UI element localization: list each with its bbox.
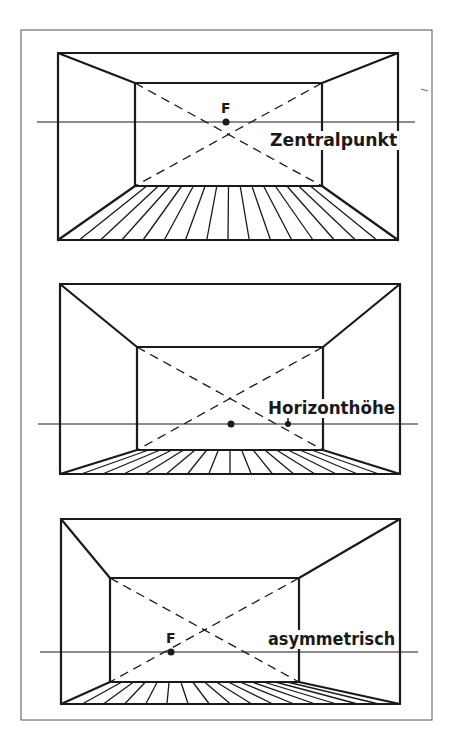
panels-group: FZentralpunktHorizonthöheFasymmetrisch	[37, 53, 418, 704]
perspective-diagram: FZentralpunktHorizonthöheFasymmetrisch	[0, 0, 456, 743]
floor-lines	[82, 682, 379, 704]
vanishing-point-label: F	[166, 630, 176, 646]
scan-artifact	[421, 89, 428, 91]
horizon-height-marker	[285, 421, 291, 427]
panel-label: asymmetrisch	[268, 629, 395, 649]
panel-label: Horizonthöhe	[268, 398, 395, 418]
outer-rect	[60, 284, 400, 474]
outer-rect	[61, 519, 400, 704]
room-walls	[61, 519, 400, 704]
panel-label: Zentralpunkt	[270, 130, 397, 150]
vanishing-point	[168, 649, 175, 656]
panel-zentralpunkt: FZentralpunkt	[37, 53, 415, 240]
panel-horizonthoehe: Horizonthöhe	[38, 284, 418, 474]
vanishing-point	[223, 119, 230, 126]
vanishing-point	[228, 421, 235, 428]
room-walls	[60, 284, 400, 474]
vanishing-point-label: F	[221, 100, 231, 116]
panel-asymmetrisch: Fasymmetrisch	[40, 519, 418, 704]
